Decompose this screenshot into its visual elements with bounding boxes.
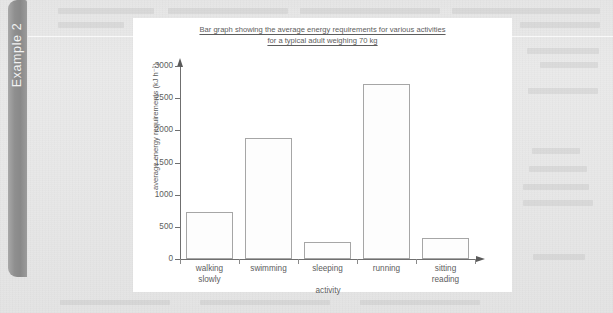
bar-sitting-reading [422, 238, 469, 259]
y-tick-label: 0 [139, 255, 173, 263]
x-category-label-line-2: reading [432, 275, 459, 284]
y-axis-title: average energy requirements (kJ h⁻¹) [151, 42, 160, 212]
background-ghost-text [529, 166, 587, 172]
x-category-label-sitting-reading: sitting reading [416, 264, 475, 285]
background-ghost-text [58, 8, 154, 14]
bar-swimming [245, 138, 292, 259]
x-category-label-line-1: sleeping [312, 264, 343, 273]
background-ghost-text [528, 88, 598, 94]
bar-walking-slowly [186, 212, 233, 259]
y-tick-mark [175, 98, 180, 99]
sidebar-example-tab: Example 2 [8, 0, 27, 277]
background-ghost-text [300, 8, 440, 14]
sidebar-example-tab-label: Example 2 [8, 0, 27, 277]
x-category-label-swimming: swimming [239, 264, 298, 275]
background-ghost-text [540, 62, 598, 68]
x-axis-title: activity [180, 286, 476, 295]
background-ghost-text [168, 8, 288, 14]
background-ghost-text [520, 22, 600, 28]
bar-sleeping [304, 242, 351, 259]
bar-running [363, 84, 410, 259]
x-category-label-line-2: slowly [198, 275, 220, 284]
background-ghost-text [58, 22, 124, 28]
background-ghost-text [533, 254, 585, 260]
y-tick-mark [175, 163, 180, 164]
x-category-label-line-1: walking [196, 264, 223, 273]
y-axis-line [180, 66, 181, 259]
x-category-label-line-1: running [373, 264, 400, 273]
bar-chart-plot: 0 500 1000 1500 2000 2500 3000 average e… [133, 18, 512, 292]
x-axis-line [180, 259, 476, 260]
background-ghost-text [452, 8, 600, 14]
y-tick-label: 500 [139, 223, 173, 231]
y-tick-mark [175, 130, 180, 131]
x-axis-arrow-icon [476, 256, 485, 262]
background-ghost-text [200, 300, 330, 305]
background-ghost-text [527, 48, 599, 54]
background-ghost-text [360, 300, 480, 305]
background-ghost-text [523, 184, 589, 190]
chart-card: Bar graph showing the average energy req… [133, 18, 512, 292]
y-tick-mark [175, 66, 180, 67]
background-ghost-text [532, 148, 580, 154]
y-tick-mark [175, 227, 180, 228]
x-category-label-walking-slowly: walking slowly [180, 264, 239, 285]
sidebar-example-tab-text: Example 2 [11, 23, 25, 87]
y-tick-mark [175, 195, 180, 196]
background-ghost-text [60, 300, 170, 305]
x-category-label-line-1: sitting [435, 264, 456, 273]
x-category-label-line-1: swimming [250, 264, 286, 273]
x-category-label-running: running [357, 264, 416, 275]
x-category-label-sleeping: sleeping [298, 264, 357, 275]
background-ghost-text [523, 200, 593, 206]
x-tick-mark [475, 259, 476, 264]
